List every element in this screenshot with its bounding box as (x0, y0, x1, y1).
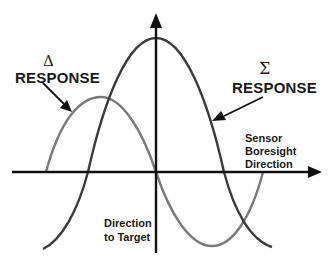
target-direction-arrowhead-icon (150, 13, 162, 28)
delta-symbol: Δ (43, 52, 54, 70)
sigma-response-label: RESPONSE (232, 80, 317, 96)
target-label-line1: Direction (104, 218, 152, 230)
target-label-line2: to Target (104, 232, 150, 244)
boresight-arrowhead-icon (308, 166, 322, 178)
boresight-label-line1: Sensor (245, 133, 282, 145)
boresight-label-line2: Boresight (245, 146, 296, 158)
delta-response-label: RESPONSE (15, 70, 100, 86)
delta-pointer-line (43, 83, 64, 104)
boresight-label-line3: Direction (245, 159, 293, 171)
sigma-pointer-line (224, 97, 263, 116)
sigma-symbol: Σ (259, 59, 270, 78)
monopulse-response-diagram (0, 0, 331, 261)
sigma-pointer-arrowhead-icon (212, 111, 226, 121)
